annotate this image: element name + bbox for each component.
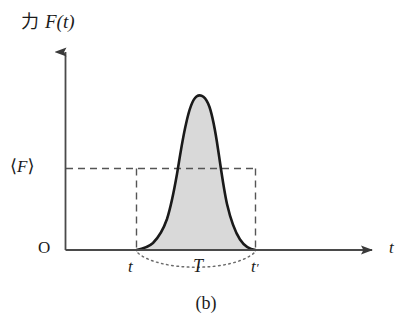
y-axis-title: 力F(t) [21,12,75,31]
y-axis-title-symbol: F(t) [45,11,75,32]
origin-label: O [38,239,50,256]
interval-label-T: T [193,257,203,275]
force-pulse-chart [0,0,412,334]
prime-mark-icon: ′ [256,260,259,275]
y-axis-title-kanji: 力 [21,11,39,32]
figure-container: 力F(t) t O ⟨F⟩ t T t′ (b) [0,0,412,334]
figure-caption: (b) [0,294,412,312]
tick-label-t-end: t′ [251,258,259,275]
angle-bracket-close-icon: ⟩ [27,156,34,176]
pulse-area-fill [137,95,256,250]
mean-force-label: ⟨F⟩ [10,157,34,175]
mean-force-symbol: F [17,157,27,176]
x-axis-title: t [389,239,394,256]
angle-bracket-open-icon: ⟨ [10,156,17,176]
tick-label-t-start: t [128,258,133,275]
